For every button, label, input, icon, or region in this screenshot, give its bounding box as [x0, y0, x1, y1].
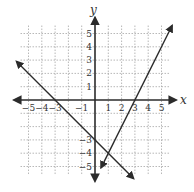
- y-tick-label: −4: [79, 148, 93, 158]
- x-tick-label: −3: [48, 103, 62, 113]
- axes: [14, 18, 176, 182]
- x-tick-label: −1: [75, 103, 88, 113]
- line-series-1: [17, 61, 134, 178]
- x-axis-label: x: [180, 93, 187, 107]
- y-tick-label: 5: [86, 29, 92, 39]
- x-tick-label: −4: [35, 103, 49, 113]
- y-tick-label: 1: [86, 82, 92, 92]
- y-tick-label: −3: [79, 135, 93, 145]
- y-tick-label: 4: [86, 42, 92, 52]
- x-tick-label: −5: [22, 103, 36, 113]
- x-tick-label: 2: [119, 103, 125, 113]
- y-axis-label: y: [89, 3, 97, 17]
- x-tick-label: 5: [159, 103, 165, 113]
- y-tick-label: 2: [86, 68, 92, 78]
- y-tick-label: −5: [79, 162, 93, 172]
- x-tick-label: 1: [105, 103, 111, 113]
- x-tick-label: 4: [145, 103, 151, 113]
- x-tick-label: 3: [132, 103, 138, 113]
- y-tick-label: 3: [86, 55, 92, 65]
- coordinate-plane: −5−4−3−11234554321−3−4−5 x y: [0, 0, 194, 192]
